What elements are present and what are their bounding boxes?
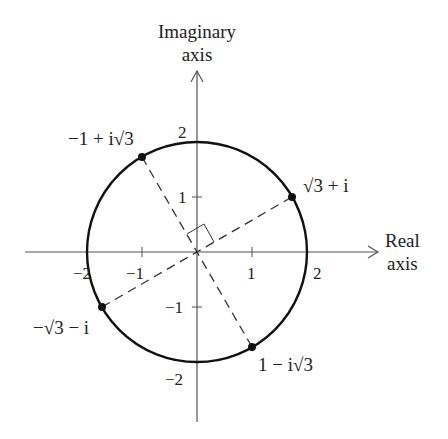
y-tick-label: −1 — [165, 298, 183, 317]
real-axis-label: Real — [385, 230, 420, 251]
point-label: 1 − i√3 — [258, 354, 313, 375]
x-tick-label: 2 — [313, 264, 322, 283]
x-tick-label: −1 — [126, 264, 144, 283]
point-neg1-plus-i-sqrt3 — [138, 153, 146, 161]
point-label: −1 + i√3 — [68, 128, 134, 149]
point-sqrt3-plus-i — [288, 193, 296, 201]
point-neg-sqrt3-minus-i — [98, 303, 106, 311]
point-label: √3 + i — [303, 175, 348, 196]
y-tick-label: −2 — [165, 370, 183, 389]
right-angle-marker — [187, 224, 214, 242]
x-tick-label: −2 — [73, 264, 91, 283]
complex-plane-diagram: Imaginary axis Real axis −2 −1 1 2 2 1 −… — [0, 0, 448, 439]
x-tick-label: 1 — [247, 264, 256, 283]
point-1-minus-i-sqrt3 — [248, 343, 256, 351]
point-label: −√3 − i — [33, 317, 89, 338]
y-tick-label: 2 — [178, 123, 187, 142]
y-tick-label: 1 — [178, 188, 187, 207]
imaginary-axis-label: Imaginary — [158, 21, 237, 42]
imaginary-axis-label: axis — [182, 44, 213, 65]
real-axis-label: axis — [387, 253, 418, 274]
